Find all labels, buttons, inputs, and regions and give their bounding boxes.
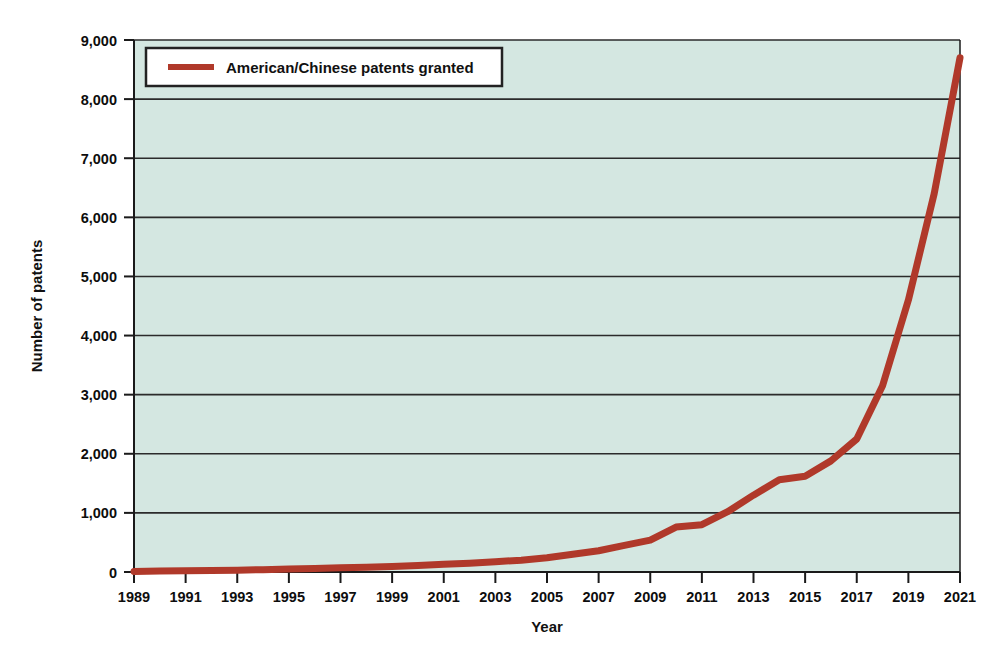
x-axis-title: Year: [531, 618, 563, 635]
x-tick-label: 2003: [479, 589, 511, 605]
x-tick-label: 2011: [686, 589, 717, 605]
x-tick-label: 2013: [737, 589, 769, 605]
x-tick-label: 1995: [273, 589, 305, 605]
x-tick-label: 2009: [634, 589, 666, 605]
x-tick-label: 2005: [531, 589, 563, 605]
x-tick-label: 1999: [376, 589, 408, 605]
y-tick-label: 5,000: [81, 269, 117, 285]
y-tick-label: 3,000: [81, 387, 117, 403]
x-tick-label: 2017: [841, 589, 873, 605]
x-tick-label: 2007: [582, 589, 614, 605]
y-tick-label: 4,000: [81, 328, 117, 344]
line-chart: 01,0002,0003,0004,0005,0006,0007,0008,00…: [0, 0, 998, 648]
y-tick-label: 0: [109, 565, 117, 581]
x-tick-label: 1997: [324, 589, 356, 605]
x-tick-label: 2001: [428, 589, 460, 605]
x-tick-label: 1993: [221, 589, 253, 605]
chart-container: 01,0002,0003,0004,0005,0006,0007,0008,00…: [0, 0, 998, 648]
plot-area-background: [134, 40, 960, 572]
y-axis-title: Number of patents: [28, 240, 45, 373]
legend-label: American/Chinese patents granted: [226, 59, 474, 76]
y-tick-label: 7,000: [81, 151, 117, 167]
chart-legend: American/Chinese patents granted: [146, 48, 502, 86]
x-tick-label: 2021: [944, 589, 976, 605]
y-tick-label: 6,000: [81, 210, 117, 226]
y-tick-label: 1,000: [81, 505, 117, 521]
x-tick-label: 1989: [118, 589, 150, 605]
x-tick-label: 2015: [789, 589, 821, 605]
y-tick-label: 9,000: [81, 33, 117, 49]
x-tick-label: 2019: [892, 589, 924, 605]
x-tick-label: 1991: [169, 589, 201, 605]
y-tick-label: 2,000: [81, 446, 117, 462]
y-tick-label: 8,000: [81, 92, 117, 108]
